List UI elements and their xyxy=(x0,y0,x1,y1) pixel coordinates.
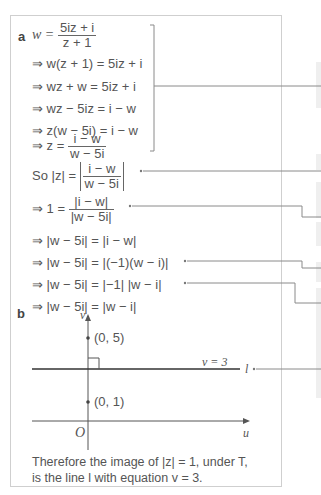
conclusion-line-1: Therefore the image of |z| = 1, under T, xyxy=(32,455,248,469)
line-equation-label: v = 3 xyxy=(202,355,227,369)
origin-label: O xyxy=(75,426,85,440)
conclusion-line-2: is the line l with equation v = 3. xyxy=(32,471,203,485)
line-l-label: l xyxy=(245,362,248,376)
point-0-1-label: (0, 1) xyxy=(94,395,124,409)
point-0-5-label: (0, 5) xyxy=(94,331,124,345)
part-b-label: b xyxy=(17,306,25,321)
connector-lines xyxy=(0,0,321,495)
axis-u-label: u xyxy=(243,426,249,440)
axis-v-label: v xyxy=(80,308,85,322)
